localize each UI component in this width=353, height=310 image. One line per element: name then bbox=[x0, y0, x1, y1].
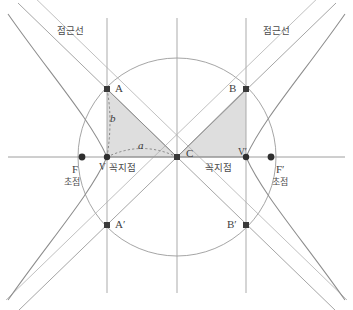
marker-focus-left bbox=[79, 154, 86, 161]
figure-canvas bbox=[0, 0, 353, 310]
hyperbola-figure: 점근선 점근선 A B A′ B′ C b a F 초점 F′ 초점 V 꼭지점… bbox=[0, 0, 353, 310]
focus-name-right: 초점 bbox=[272, 178, 288, 187]
vertex-label-left: V bbox=[99, 163, 106, 173]
focus-name-left: 초점 bbox=[64, 178, 80, 187]
asymptote-label-right: 점근선 bbox=[263, 26, 291, 36]
marker-point-b-prime bbox=[243, 222, 249, 228]
point-label-b: B bbox=[229, 83, 236, 94]
marker-vertex-left bbox=[104, 154, 110, 160]
marker-point-a-prime bbox=[104, 222, 110, 228]
length-label-a: a bbox=[138, 140, 144, 151]
point-label-a: A bbox=[115, 83, 123, 94]
vertex-name-right: 꼭지점 bbox=[205, 163, 233, 173]
marker-point-b bbox=[243, 86, 249, 92]
point-label-a-prime: A′ bbox=[115, 219, 125, 230]
marker-focus-right bbox=[268, 154, 275, 161]
marker-point-a bbox=[104, 86, 110, 92]
asymptote-label-left: 점근선 bbox=[57, 26, 85, 36]
vertex-label-right: V′ bbox=[238, 148, 247, 158]
focus-label-right: F′ bbox=[276, 164, 285, 175]
point-label-center-c: C bbox=[186, 148, 193, 159]
focus-label-left: F bbox=[72, 164, 78, 175]
length-label-b: b bbox=[110, 113, 116, 124]
vertex-name-left: 꼭지점 bbox=[109, 163, 137, 173]
point-label-b-prime: B′ bbox=[227, 219, 237, 230]
marker-center-c bbox=[174, 154, 180, 160]
